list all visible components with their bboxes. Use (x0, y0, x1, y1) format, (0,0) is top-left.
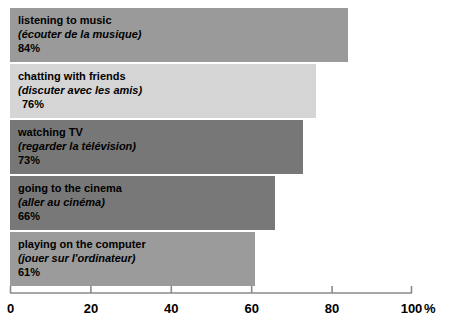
bar: chatting with friends(discuter avec les … (10, 64, 316, 118)
x-axis-tick-label: 0 (7, 301, 14, 317)
bar-label-french: (jouer sur l'ordinateur) (18, 251, 255, 265)
bar-value-label: 76% (18, 97, 316, 111)
x-axis-tick-label: 40 (164, 301, 178, 317)
bar-label-french: (aller au cinéma) (18, 195, 275, 209)
x-axis-tick-label: 100 (401, 301, 423, 317)
bar-series: listening to music(écouter de la musique… (10, 8, 412, 288)
bar-label-english: listening to music (18, 13, 348, 27)
bar-label-english: watching TV (18, 125, 303, 139)
bar-value-label: 66% (18, 209, 275, 223)
x-axis-tick-label: 80 (325, 301, 339, 317)
bar-value-label: 84% (18, 41, 348, 55)
bar-label-french: (regarder la télévision) (18, 139, 303, 153)
bar-label-french: (écouter de la musique) (18, 27, 348, 41)
x-axis-tick-label: 60 (244, 301, 258, 317)
bar: watching TV(regarder la télévision)73% (10, 120, 303, 174)
x-axis-unit-label: % (424, 301, 436, 317)
bar-value-label: 73% (18, 153, 303, 167)
bar-label-french: (discuter avec les amis) (18, 83, 316, 97)
bar-label-english: going to the cinema (18, 181, 275, 195)
bar: playing on the computer(jouer sur l'ordi… (10, 232, 255, 286)
chart-title-clipped (0, 0, 451, 2)
horizontal-bar-chart: listening to music(écouter de la musique… (0, 0, 451, 329)
bar: going to the cinema(aller au cinéma)66% (10, 176, 275, 230)
x-axis-tick-label: 20 (84, 301, 98, 317)
bar: listening to music(écouter de la musique… (10, 8, 348, 62)
bar-label-english: playing on the computer (18, 237, 255, 251)
bar-label-english: chatting with friends (18, 69, 316, 83)
bar-value-label: 61% (18, 265, 255, 279)
